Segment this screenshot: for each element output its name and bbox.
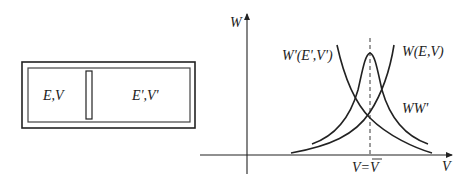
x-axis-label: V	[442, 159, 452, 174]
curve-w-label: W(E,V)	[402, 44, 444, 60]
equilibrium-label: V=V	[352, 160, 380, 175]
container-box: E,V E',V'	[22, 62, 195, 128]
graph: W V V=V W'(E',V') W(E,V) WW'	[200, 14, 452, 175]
curve-product-label: WW'	[402, 101, 429, 116]
equilibrium-label-lhs: V=	[352, 160, 370, 175]
y-axis-label: W	[230, 15, 243, 30]
curve-w-prime-label: W'(E',V')	[282, 48, 333, 64]
diagram-canvas: E,V E',V' W V V=V W'(E',V') W(E,V) WW'	[0, 0, 472, 183]
right-subsystem-label: E',V'	[131, 88, 160, 103]
equilibrium-label-rhs: V	[370, 160, 380, 175]
partition-wall	[86, 71, 92, 119]
left-subsystem-label: E,V	[42, 88, 65, 103]
